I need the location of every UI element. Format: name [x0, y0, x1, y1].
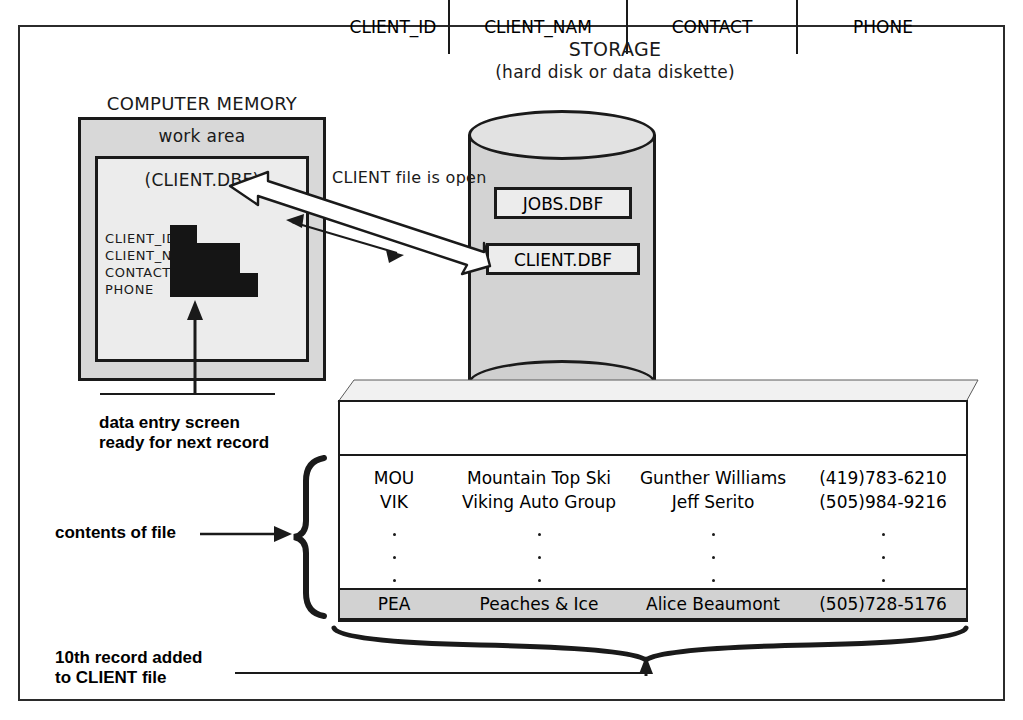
table-ellipsis-dot — [882, 579, 885, 582]
field-label-phone: PHONE — [105, 282, 154, 297]
contents-of-file-brace — [292, 455, 332, 620]
highlight-cell: Alice Beaumont — [628, 594, 798, 614]
column-header-label: CLIENT_ID — [350, 17, 437, 37]
table-cell: (419)783-6210 — [798, 468, 968, 488]
record-added-brace — [330, 618, 970, 678]
table-ellipsis-dot — [712, 579, 715, 582]
table-header-cell-2: CONTACT — [628, 0, 798, 54]
table-ellipsis-dot — [712, 556, 715, 559]
table-ellipsis-dot — [712, 533, 715, 536]
column-header-label: CONTACT — [672, 17, 753, 37]
field-label-contact: CONTACT — [105, 265, 171, 280]
table-cell: (505)984-9216 — [798, 492, 968, 512]
diagram-canvas: STORAGE (hard disk or data diskette) JOB… — [0, 0, 1023, 720]
contents-of-file-arrow-icon — [200, 522, 295, 546]
table-ellipsis-dot — [882, 533, 885, 536]
highlight-cell: Peaches & Ice — [450, 594, 628, 614]
highlight-cell: (505)728-5176 — [798, 594, 968, 614]
highlight-cell: PEA — [338, 594, 450, 614]
table-ellipsis-dot — [538, 579, 541, 582]
table-ellipsis-dot — [882, 556, 885, 559]
table-cell: VIK — [338, 492, 450, 512]
column-header-label: CLIENT_NAM — [484, 17, 592, 37]
file-box-jobs[interactable]: JOBS.DBF — [494, 187, 632, 219]
table-cell: Jeff Serito — [628, 492, 798, 512]
table-cell: MOU — [338, 468, 450, 488]
memory-title: COMPUTER MEMORY — [78, 93, 326, 114]
file-open-double-arrow-icon — [222, 170, 492, 285]
table-ellipsis-dot — [393, 556, 396, 559]
column-header-label: PHONE — [853, 17, 913, 37]
table-ellipsis-dot — [538, 533, 541, 536]
work-area-label: work area — [78, 126, 326, 146]
arrow-label: CLIENT file is open — [332, 168, 487, 187]
table-header-cell-1: CLIENT_NAM — [450, 0, 628, 54]
annotation-contents-of-file: contents of file — [55, 523, 176, 543]
table-header-separator — [338, 454, 968, 456]
annotation-record-added: 10th record added to CLIENT file — [55, 648, 202, 688]
table-header-cell-0: CLIENT_ID — [338, 0, 450, 54]
table-ellipsis-dot — [393, 579, 396, 582]
table-ellipsis-dot — [538, 556, 541, 559]
field-label-client-id: CLIENT_ID — [105, 231, 177, 246]
table-header-cell-3: PHONE — [798, 0, 968, 54]
table-cell: Mountain Top Ski — [450, 468, 628, 488]
table-cell: Viking Auto Group — [450, 492, 628, 512]
table-ellipsis-dot — [393, 533, 396, 536]
annotation-data-entry: data entry screen ready for next record — [99, 413, 269, 453]
data-entry-leader-line — [100, 393, 275, 395]
storage-cylinder-top — [468, 110, 656, 160]
storage-subtitle: (hard disk or data diskette) — [450, 62, 780, 82]
file-box-client[interactable]: CLIENT.DBF — [486, 243, 640, 275]
table-cell: Gunther Williams — [628, 468, 798, 488]
data-entry-arrow-icon — [180, 300, 210, 395]
